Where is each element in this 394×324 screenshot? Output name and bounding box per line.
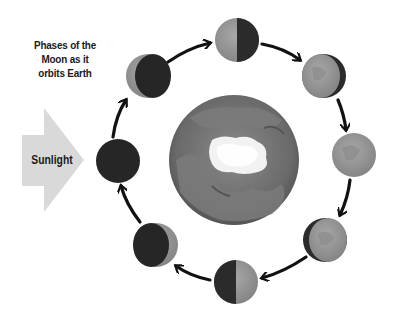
earth-icon: [169, 95, 299, 225]
last-quarter-icon: [214, 260, 258, 304]
full-moon-icon: [332, 133, 376, 177]
waning-gibbous-icon: [303, 218, 347, 262]
sunlight-label: Sunlight: [28, 153, 76, 167]
waxing-gibbous-icon: [302, 54, 346, 98]
diagram-title: Phases of the Moon as it orbits Earth: [26, 38, 103, 80]
arrow-icon: [176, 266, 210, 280]
arrow-icon: [168, 43, 210, 62]
title-line: Phases of the: [26, 38, 103, 52]
arrow-icon: [262, 257, 306, 278]
arrow-icon: [340, 180, 350, 215]
new-moon-icon: [96, 139, 140, 183]
arrow-icon: [262, 44, 300, 60]
arrow-icon: [121, 186, 140, 222]
title-line: orbits Earth: [26, 66, 103, 80]
arrow-icon: [113, 100, 126, 137]
first-quarter-icon: [215, 18, 259, 62]
arrow-icon: [338, 100, 346, 130]
title-line: Moon as it: [26, 52, 103, 66]
waxing-crescent-icon: [126, 54, 171, 98]
waning-crescent-icon: [133, 223, 178, 267]
